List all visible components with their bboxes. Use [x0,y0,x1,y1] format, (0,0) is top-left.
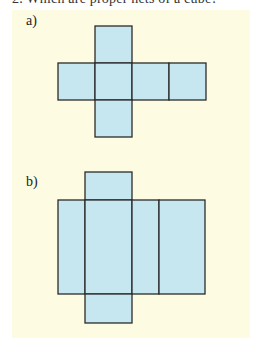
cube-net-a [58,26,206,137]
net-face [132,200,159,294]
net-face [95,26,132,63]
prism-net-b [58,172,205,323]
net-face [95,100,132,137]
nets-diagram [0,0,259,350]
net-face [85,172,132,200]
net-face [58,200,85,294]
net-face [85,294,132,323]
net-face [95,63,132,100]
net-face [159,200,205,294]
net-face [132,63,169,100]
net-face [58,63,95,100]
net-face [85,200,132,294]
net-face [169,63,206,100]
